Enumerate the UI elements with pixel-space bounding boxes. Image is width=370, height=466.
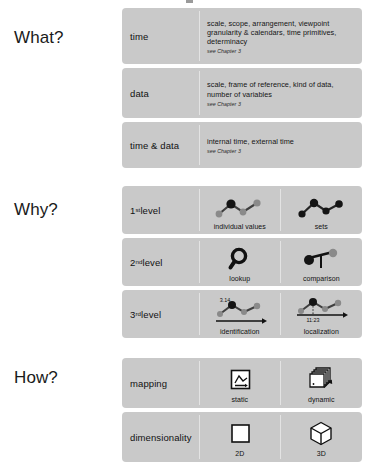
row-content-data: scale, frame of reference, kind of data,… <box>199 68 362 118</box>
row-mapping[interactable]: mapping static <box>122 358 362 408</box>
label-rest: level <box>142 257 162 268</box>
square-2d-icon <box>227 419 253 449</box>
diagram-page: What? time scale, scope, arrangement, vi… <box>0 0 370 466</box>
line-chart-one-highlighted-icon <box>209 192 271 222</box>
column-divider <box>199 293 200 335</box>
column-divider <box>199 125 200 165</box>
row-label-mapping: mapping <box>122 358 199 408</box>
row-label-dimensionality: dimensionality <box>122 412 199 462</box>
row-second-level[interactable]: 2nd level lookup <box>122 238 362 286</box>
row-content-time-and-data: internal time, external time see Chapter… <box>199 122 362 168</box>
section-title-why: Why? <box>14 200 58 220</box>
icon-caption: individual values <box>214 223 266 230</box>
row-label-second-level: 2nd level <box>122 238 199 286</box>
why-panels: 1st level individual values <box>122 186 362 342</box>
label-rest: level <box>140 205 160 216</box>
cell-3d[interactable]: 3D <box>281 412 363 462</box>
column-divider <box>199 361 200 405</box>
row-label-first-level: 1st level <box>122 186 199 234</box>
row-chapter-ref: see Chapter 3 <box>207 148 356 154</box>
row-chapter-ref: see Chapter 3 <box>207 101 356 107</box>
column-divider <box>199 11 200 61</box>
column-divider <box>199 415 200 459</box>
cell-sets[interactable]: sets <box>281 186 363 234</box>
section-title-what: What? <box>14 28 64 48</box>
what-panels: time scale, scope, arrangement, viewpoin… <box>122 8 362 172</box>
value-label-11-23: 11:23 <box>307 317 320 323</box>
row-first-level[interactable]: 1st level individual values <box>122 186 362 234</box>
column-divider <box>199 71 200 115</box>
icon-caption: comparison <box>303 275 340 282</box>
icon-caption: sets <box>315 223 328 230</box>
label-rest: level <box>141 309 161 320</box>
row-time-and-data[interactable]: time & data internal time, external time… <box>122 122 362 168</box>
column-divider <box>280 415 281 459</box>
row-body-text: internal time, external time <box>207 137 356 146</box>
row-body-text: scale, scope, arrangement, viewpoint gra… <box>207 19 356 47</box>
cell-static[interactable]: static <box>199 358 281 408</box>
row-label-third-level: 3rd level <box>122 290 199 338</box>
column-divider <box>199 189 200 231</box>
row-data[interactable]: data scale, frame of reference, kind of … <box>122 68 362 118</box>
value-label-3-14: 3.14 <box>220 296 231 302</box>
balance-scale-icon <box>301 244 341 274</box>
icon-caption: localization <box>304 328 339 335</box>
line-chart-value-label-icon: 3.14 <box>208 295 272 327</box>
icon-caption: identification <box>220 328 260 335</box>
column-divider <box>280 241 281 283</box>
line-chart-all-highlighted-icon <box>290 192 352 222</box>
section-title-how: How? <box>14 368 58 388</box>
row-time[interactable]: time scale, scope, arrangement, viewpoin… <box>122 8 362 64</box>
row-chapter-ref: see Chapter 3 <box>207 48 356 54</box>
framed-chart-icon <box>226 365 254 395</box>
magnifying-glass-icon <box>225 244 255 274</box>
top-edge-artifact <box>186 0 193 3</box>
row-body-text: scale, frame of reference, kind of data,… <box>207 80 356 98</box>
line-chart-time-label-icon: 11:23 <box>289 295 353 327</box>
icon-caption: lookup <box>229 275 250 282</box>
icon-caption: 3D <box>317 450 326 457</box>
icon-caption: static <box>231 396 248 403</box>
row-third-level[interactable]: 3rd level 3.14 <box>122 290 362 338</box>
cell-localization[interactable]: 11:23 localization <box>281 290 363 338</box>
row-label-time-and-data: time & data <box>122 122 199 168</box>
cell-lookup[interactable]: lookup <box>199 238 281 286</box>
row-label-time: time <box>122 8 199 64</box>
column-divider <box>280 361 281 405</box>
column-divider <box>280 189 281 231</box>
column-divider <box>199 241 200 283</box>
cell-comparison[interactable]: comparison <box>281 238 363 286</box>
column-divider <box>280 293 281 335</box>
row-label-data: data <box>122 68 199 118</box>
icon-caption: dynamic <box>308 396 334 403</box>
cell-identification[interactable]: 3.14 identification <box>199 290 281 338</box>
icon-caption: 2D <box>235 450 244 457</box>
row-content-time: scale, scope, arrangement, viewpoint gra… <box>199 8 362 64</box>
how-panels: mapping static <box>122 358 362 466</box>
row-dimensionality[interactable]: dimensionality 2D <box>122 412 362 462</box>
cell-2d[interactable]: 2D <box>199 412 281 462</box>
stacked-cards-arrow-icon <box>305 365 337 395</box>
cell-individual-values[interactable]: individual values <box>199 186 281 234</box>
cube-3d-icon <box>307 419 335 449</box>
cell-dynamic[interactable]: dynamic <box>281 358 363 408</box>
